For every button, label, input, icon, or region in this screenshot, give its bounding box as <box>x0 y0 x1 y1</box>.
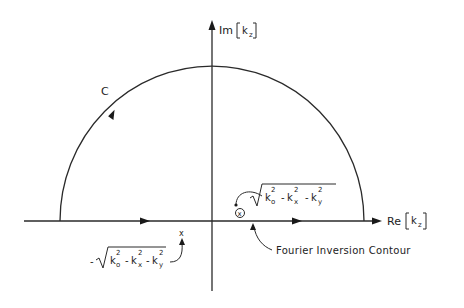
imag-axis-label: Im k z <box>219 23 256 39</box>
sqrt-sign <box>250 184 336 206</box>
svg-text:-: - <box>146 255 150 266</box>
real-axis-arrow-icon <box>372 218 382 225</box>
svg-text:o: o <box>271 198 275 206</box>
svg-text:2: 2 <box>138 249 142 257</box>
svg-text:o: o <box>116 261 120 269</box>
svg-text:k: k <box>242 25 248 36</box>
complex-plane-diagram: C Im k z Re k z x k 2 o - k 2 x - k 2 y … <box>0 0 464 308</box>
svg-text:2: 2 <box>116 249 120 257</box>
svg-text:2: 2 <box>159 249 163 257</box>
pointer-dot <box>234 203 237 206</box>
svg-text:z: z <box>418 221 422 229</box>
upper-pole: x <box>236 209 245 219</box>
svg-text:x: x <box>294 198 298 206</box>
svg-text:2: 2 <box>271 186 275 194</box>
right-bracket <box>423 213 426 229</box>
svg-text:-: - <box>281 192 285 203</box>
svg-text:k: k <box>287 192 293 203</box>
lower-pole-arrow-icon <box>179 238 185 245</box>
svg-text:-: - <box>305 192 309 203</box>
lower-pole-expression: - k 2 o - k 2 x - k 2 y <box>90 247 166 269</box>
imag-axis-arrow-icon <box>209 20 216 30</box>
lower-pole-marker: x <box>179 229 184 238</box>
svg-text:z: z <box>249 31 253 39</box>
inversion-contour-pointer <box>254 227 272 250</box>
upper-pole-expression: k 2 o - k 2 x - k 2 y <box>250 184 336 206</box>
svg-text:-: - <box>125 255 129 266</box>
svg-text:k: k <box>152 255 158 266</box>
inversion-contour-label: Fourier Inversion Contour <box>276 245 411 256</box>
real-axis-label: Re k z <box>387 213 426 229</box>
contour-label: C <box>101 85 109 98</box>
svg-text:-: - <box>90 256 94 267</box>
svg-text:x: x <box>138 261 142 269</box>
svg-text:2: 2 <box>294 186 298 194</box>
svg-text:x: x <box>238 210 242 218</box>
svg-text:k: k <box>311 192 317 203</box>
axis-direction-arrow-right-icon <box>292 218 302 225</box>
svg-text:y: y <box>318 198 322 206</box>
svg-text:Re: Re <box>387 215 401 228</box>
svg-text:k: k <box>131 255 137 266</box>
lower-pole-pointer <box>170 243 182 262</box>
arc-direction-arrow-icon <box>108 110 116 121</box>
svg-text:2: 2 <box>318 186 322 194</box>
axis-direction-arrow-left-icon <box>140 218 150 225</box>
left-bracket <box>406 213 409 229</box>
svg-text:Im: Im <box>219 24 233 37</box>
svg-text:y: y <box>159 261 163 269</box>
left-bracket <box>237 23 240 38</box>
svg-text:k: k <box>411 215 417 226</box>
right-bracket <box>253 23 256 38</box>
inversion-contour-arrow-icon <box>250 223 256 230</box>
